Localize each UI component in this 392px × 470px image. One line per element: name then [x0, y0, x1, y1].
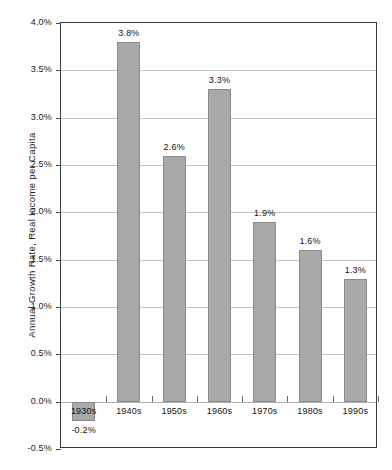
y-axis-tick-mark [56, 307, 61, 308]
x-axis-tick-mark [106, 396, 107, 402]
plot-area: -0.2%3.8%2.6%3.3%1.9%1.6%1.3% 1930s1940s… [60, 22, 377, 448]
x-axis-tick-mark [378, 396, 379, 402]
bar-value-label: 1.3% [325, 265, 385, 275]
bar [208, 89, 231, 401]
bar-value-label: 2.6% [144, 142, 204, 152]
bar [299, 250, 322, 401]
y-axis-tick-mark [56, 402, 61, 403]
x-axis-tick-mark [152, 396, 153, 402]
y-axis-tick-mark [56, 118, 61, 119]
y-axis-tick-mark [56, 354, 61, 355]
y-axis-tick-label: 3.0% [6, 112, 52, 122]
y-axis-tick-label: 1.0% [6, 301, 52, 311]
y-axis-tick-label: 0.0% [6, 396, 52, 406]
bar-value-label: 3.3% [190, 75, 250, 85]
bar-value-label: 3.8% [99, 28, 159, 38]
x-axis-tick-mark [197, 396, 198, 402]
gridline [61, 70, 376, 71]
x-axis-tick-mark [242, 396, 243, 402]
y-axis-tick-label: -0.5% [6, 443, 52, 453]
y-axis-tick-label: 4.0% [6, 17, 52, 27]
bar-value-label: 1.6% [280, 236, 340, 246]
y-axis-tick-mark [56, 212, 61, 213]
bar-value-label: 1.9% [235, 208, 295, 218]
bar [344, 279, 367, 402]
bar-value-label: -0.2% [54, 425, 114, 435]
y-axis-tick-label: 2.5% [6, 159, 52, 169]
y-axis-tick-label: 0.5% [6, 348, 52, 358]
gridline [61, 402, 376, 403]
y-axis-tick-label: 3.5% [6, 64, 52, 74]
y-axis-tick-mark [56, 260, 61, 261]
bar [163, 156, 186, 402]
x-axis-category-label: 1990s [325, 406, 385, 416]
bar-chart: Annual Growth Rate, Real Income per Capi… [0, 0, 392, 470]
y-axis-tick-mark [56, 70, 61, 71]
y-axis-tick-mark [56, 165, 61, 166]
x-axis-tick-mark [287, 396, 288, 402]
y-axis-tick-mark [56, 449, 61, 450]
x-axis-tick-mark [333, 396, 334, 402]
y-axis-tick-label: 1.5% [6, 254, 52, 264]
bar [253, 222, 276, 402]
bar [117, 42, 140, 402]
y-axis-tick-label: 2.0% [6, 206, 52, 216]
y-axis-tick-mark [56, 23, 61, 24]
